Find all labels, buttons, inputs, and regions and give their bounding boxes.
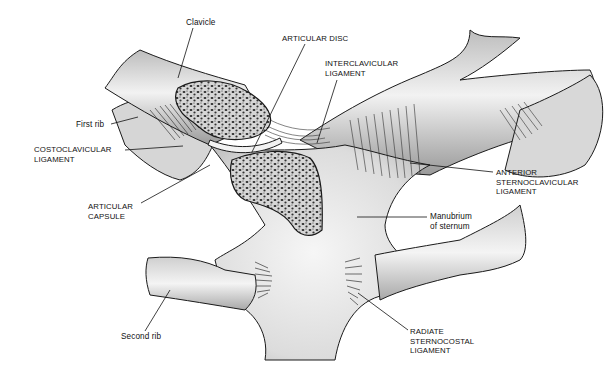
label-articular-capsule: ARTICULAR CAPSULE: [88, 202, 133, 221]
label-first-rib: First rib: [76, 120, 104, 130]
label-anterior-sternoclavicular-ligament: ANTERIOR STERNOCLAVICULAR LIGAMENT: [496, 168, 578, 197]
label-radiate-sternocostal-ligament: RADIATE STERNOCOSTAL LIGAMENT: [410, 327, 474, 356]
label-manubrium-of-sternum: Manubrium of sternum: [430, 212, 472, 231]
label-clavicle: Clavicle: [186, 18, 215, 28]
label-articular-disc: ARTICULAR DISC: [282, 34, 348, 44]
label-interclavicular-ligament: INTERCLAVICULAR LIGAMENT: [325, 59, 398, 78]
label-costoclavicular-ligament: COSTOCLAVICULAR LIGAMENT: [34, 145, 111, 164]
label-second-rib: Second rib: [121, 332, 161, 342]
